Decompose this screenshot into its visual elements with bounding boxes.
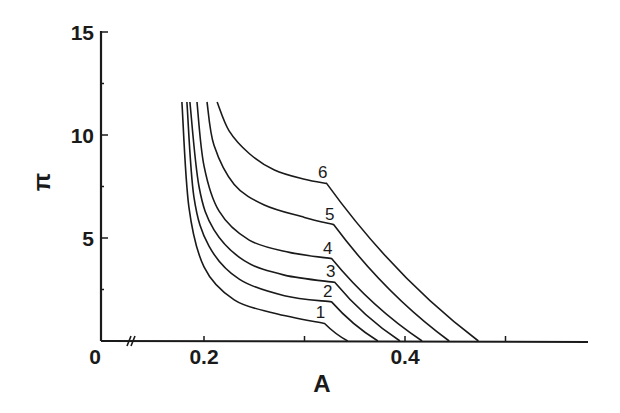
curve-label-3: 3 — [326, 262, 335, 281]
y-tick-label: 5 — [82, 227, 94, 250]
x-axis-line — [101, 341, 588, 342]
curve-3 — [190, 102, 400, 341]
axes — [101, 31, 588, 346]
curve-label-2: 2 — [323, 282, 332, 301]
y-tick-label: 15 — [71, 21, 95, 44]
curve-label-4: 4 — [323, 239, 332, 258]
curve-label-1: 1 — [316, 303, 325, 322]
curve-label-6: 6 — [318, 163, 327, 182]
x-axis-title: A — [313, 370, 330, 397]
curve-2 — [187, 102, 378, 341]
curve-4 — [197, 102, 422, 341]
y-axis-title: π — [28, 173, 55, 191]
x-tick-label-origin: 0 — [89, 345, 101, 368]
x-tick-label: 0.4 — [390, 345, 420, 368]
curve-label-5: 5 — [325, 205, 334, 224]
chart-canvas: 5101500.20.4Aπ123456 — [0, 0, 620, 413]
curve-6 — [217, 102, 478, 341]
y-tick-label: 10 — [71, 124, 94, 147]
x-tick-label: 0.2 — [189, 345, 218, 368]
